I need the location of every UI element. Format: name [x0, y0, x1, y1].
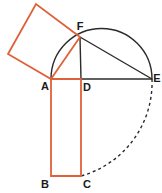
vertex-label-C: C — [83, 178, 91, 190]
vertex-label-B: B — [41, 178, 49, 190]
vertex-label-E: E — [153, 72, 160, 84]
vertex-label-F: F — [77, 20, 84, 32]
segment-FD — [80, 37, 81, 79]
geometry-figure-canvas: A B C D E F — [0, 0, 162, 193]
vertex-label-A: A — [41, 80, 49, 92]
geometry-diagram: A B C D E F — [0, 0, 162, 193]
vertex-label-D: D — [83, 81, 91, 93]
